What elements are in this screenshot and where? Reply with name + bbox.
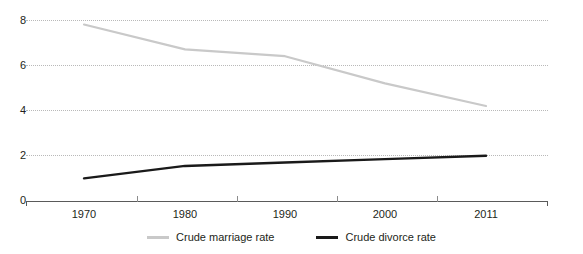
legend-label-marriage: Crude marriage rate	[176, 231, 274, 243]
line-chart: 8 6 4 2 0 1970 1980 1990 2000 2011 Crude…	[0, 0, 583, 254]
legend-line-icon-marriage	[147, 236, 169, 239]
plot-area: 8 6 4 2 0 1970 1980 1990 2000 2011	[0, 0, 583, 254]
series-line-crude-divorce-rate	[84, 156, 486, 179]
series-layer	[0, 0, 583, 254]
chart-legend: Crude marriage rate Crude divorce rate	[0, 231, 583, 243]
series-line-crude-marriage-rate	[84, 25, 486, 106]
legend-line-icon-divorce	[316, 236, 338, 239]
legend-item-crude-marriage-rate[interactable]: Crude marriage rate	[147, 231, 274, 243]
legend-item-crude-divorce-rate[interactable]: Crude divorce rate	[316, 231, 436, 243]
legend-label-divorce: Crude divorce rate	[345, 231, 436, 243]
